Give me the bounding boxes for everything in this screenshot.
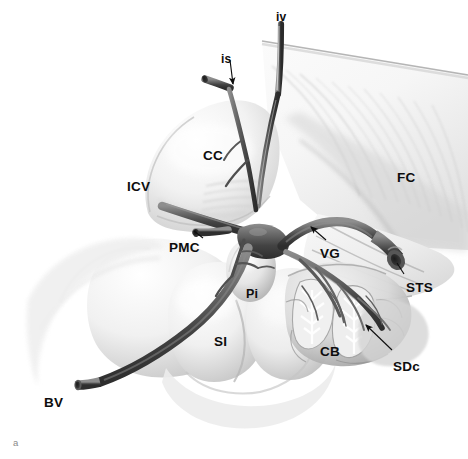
label-vg: VG [320, 247, 340, 261]
label-cb: CB [320, 345, 340, 359]
label-sdc: SDc [393, 360, 420, 374]
anatomical-figure: iv is CC ICV PMC FC VG STS Pi SI CB SDc … [0, 0, 468, 459]
label-is: is [221, 53, 231, 65]
label-pmc: PMC [169, 241, 200, 255]
panel-label: a [13, 437, 18, 448]
label-icv: ICV [127, 180, 150, 194]
label-fc: FC [397, 171, 415, 185]
label-bv: BV [44, 396, 63, 410]
label-iv: iv [276, 11, 286, 23]
illustration-canvas [0, 0, 468, 459]
label-si: SI [214, 335, 227, 349]
label-cc: CC [203, 149, 223, 163]
label-pi: Pi [246, 288, 258, 301]
label-sts: STS [406, 281, 433, 295]
